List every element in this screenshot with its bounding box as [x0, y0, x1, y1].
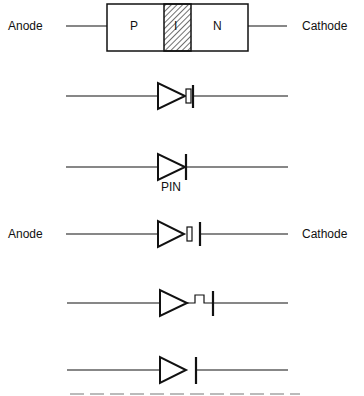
symbol-diode-gap-bar	[67, 357, 288, 384]
symbol-diode-step-bar	[67, 290, 288, 316]
cathode-label: Cathode	[302, 19, 347, 33]
region-i-label: I	[174, 19, 177, 33]
pin-diode-diagram	[0, 0, 364, 396]
symbol-diode-with-box	[66, 83, 288, 109]
cathode-label-2: Cathode	[302, 227, 347, 241]
anode-label: Anode	[8, 19, 43, 33]
region-p-label: P	[130, 19, 138, 33]
anode-label-2: Anode	[8, 227, 43, 241]
pin-caption: PIN	[161, 180, 181, 194]
symbol-diode-box-bar	[66, 221, 288, 247]
region-n-label: N	[213, 19, 222, 33]
symbol-plain-diode	[66, 154, 288, 180]
